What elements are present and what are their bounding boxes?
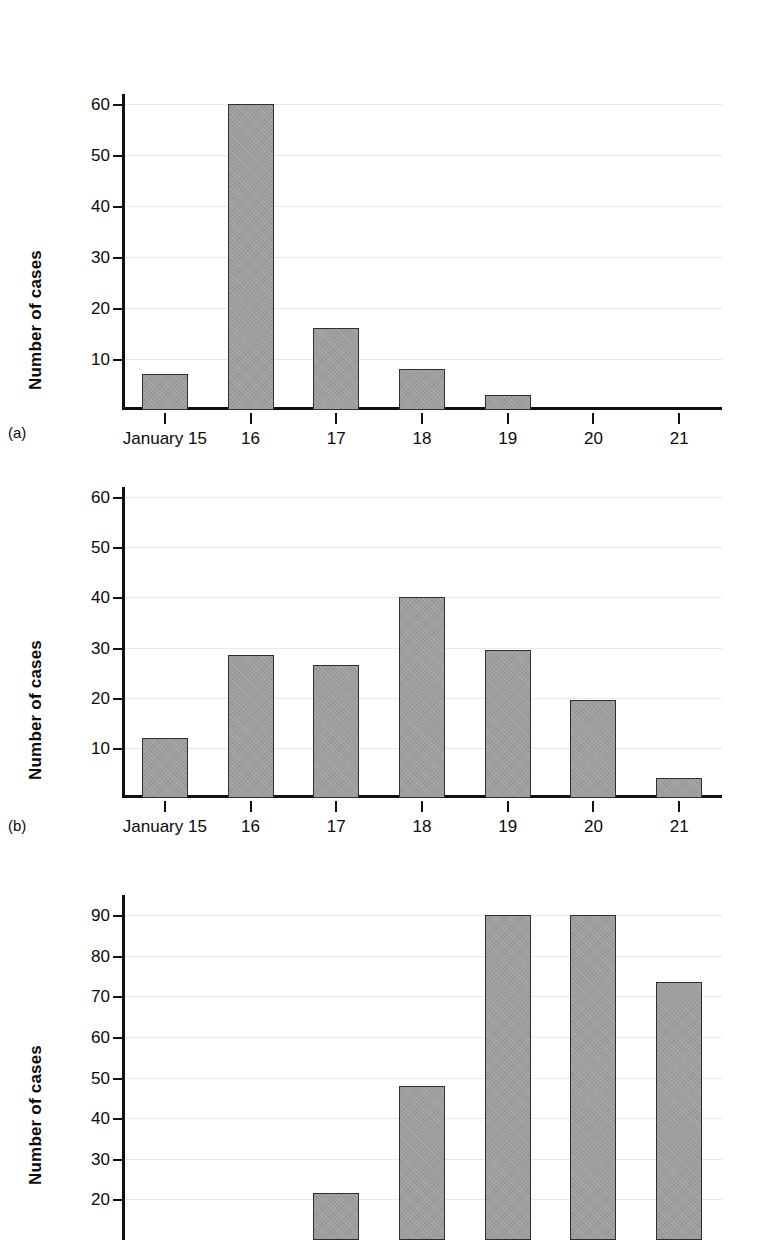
y-axis-tick-label: 90 [91,907,110,924]
gridline [125,257,722,258]
y-axis-tick-label: 30 [91,639,110,656]
x-axis-tick-label: 21 [670,818,689,835]
y-axis-tick [113,996,122,998]
bar [656,778,702,798]
gridline [125,497,722,498]
x-axis-tick [421,413,423,424]
y-axis-tick [113,257,122,259]
x-axis-tick-label: 20 [584,818,603,835]
y-axis-tick [113,206,122,208]
plot-area-c: 2030405060708090 [122,895,722,1240]
x-axis-tick-label: 18 [413,430,432,447]
gridline [125,155,722,156]
y-axis-tick [113,648,122,650]
x-axis-tick [250,413,252,424]
y-axis-label-a: Number of cases [26,250,46,390]
y-axis-tick-label: 40 [91,589,110,606]
x-axis-tick-label: 18 [413,818,432,835]
x-axis-tick [164,801,166,812]
y-axis-tick-label: 30 [91,1150,110,1167]
gridline [125,308,722,309]
x-axis-tick [678,801,680,812]
x-axis-tick [507,801,509,812]
bar [313,328,359,410]
y-axis-label-b: Number of cases [26,640,46,780]
y-axis-line-c [122,895,125,1240]
y-axis-tick-label: 50 [91,1069,110,1086]
x-axis-tick-label: 19 [498,430,517,447]
gridline [125,104,722,105]
bar [313,665,359,798]
y-axis-tick [113,1199,122,1201]
x-axis-tick-label: 20 [584,430,603,447]
y-axis-tick-label: 40 [91,198,110,215]
y-axis-tick-label: 10 [91,739,110,756]
y-axis-tick [113,104,122,106]
gridline [125,359,722,360]
chart-panel-a: Number of cases 102030405060January 1516… [0,60,762,450]
y-axis-tick [113,497,122,499]
bar [399,1086,445,1240]
y-axis-tick-label: 20 [91,1191,110,1208]
gridline [125,915,722,916]
y-axis-label-c: Number of cases [26,1045,46,1185]
y-axis-tick [113,1118,122,1120]
plot-area-a: 102030405060January 15161718192021 [122,94,722,410]
y-axis-tick [113,547,122,549]
x-axis-tick-label: 19 [498,818,517,835]
y-axis-tick [113,956,122,958]
bar [228,655,274,798]
y-axis-tick [113,155,122,157]
y-axis-line-b [122,487,125,798]
y-axis-tick [113,308,122,310]
bar [313,1193,359,1240]
gridline [125,206,722,207]
y-axis-tick [113,597,122,599]
x-axis-tick-label: 17 [327,818,346,835]
x-axis-tick [250,801,252,812]
bar [570,700,616,798]
bar [399,369,445,410]
gridline [125,1037,722,1038]
y-axis-tick [113,1159,122,1161]
gridline [125,996,722,997]
y-axis-tick-label: 20 [91,689,110,706]
bar [570,915,616,1240]
x-axis-tick [335,801,337,812]
y-axis-tick [113,359,122,361]
y-axis-tick-label: 50 [91,539,110,556]
x-axis-tick [421,801,423,812]
panel-letter-a: (a) [8,424,26,441]
y-axis-tick [113,915,122,917]
y-axis-tick-label: 60 [91,1029,110,1046]
bar [142,738,188,798]
y-axis-tick [113,1037,122,1039]
y-axis-tick-label: 10 [91,351,110,368]
x-axis-tick [507,413,509,424]
y-axis-line-a [122,94,125,410]
bar [485,395,531,410]
bar [485,650,531,798]
gridline [125,1078,722,1079]
bar [485,915,531,1240]
gridline [125,547,722,548]
y-axis-tick [113,1078,122,1080]
x-axis-tick-label: 17 [327,430,346,447]
y-axis-tick-label: 50 [91,147,110,164]
y-axis-tick-label: 40 [91,1110,110,1127]
panel-letter-b: (b) [8,817,26,834]
x-axis-tick-label: 16 [241,818,260,835]
chart-panel-c: Number of cases 2030405060708090 [0,855,762,1240]
y-axis-tick-label: 80 [91,947,110,964]
y-axis-tick-label: 60 [91,96,110,113]
bar [228,104,274,410]
y-axis-tick-label: 70 [91,988,110,1005]
x-axis-tick-label: 21 [670,430,689,447]
figure-epidemic-curves: Number of cases 102030405060January 1516… [0,0,762,1240]
plot-area-b: 102030405060January 15161718192021 [122,487,722,798]
x-axis-tick [335,413,337,424]
x-axis-tick-label: 16 [241,430,260,447]
y-axis-tick [113,698,122,700]
x-axis-tick [678,413,680,424]
y-axis-tick-label: 30 [91,249,110,266]
